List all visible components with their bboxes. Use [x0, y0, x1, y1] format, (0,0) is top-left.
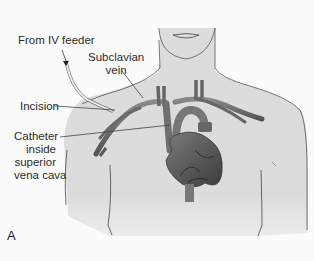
label-catheter-line3: superior	[14, 156, 56, 169]
inferior-vena-cava	[185, 184, 194, 202]
label-subclavian-vein: Subclavian vein	[88, 51, 144, 77]
label-catheter-svc: Catheter inside superior vena cava	[14, 130, 56, 182]
label-incision: Incision	[20, 100, 59, 113]
label-subclavian-line1: Subclavian	[88, 51, 144, 64]
label-from-iv-feeder: From IV feeder	[18, 34, 95, 47]
panel-letter: A	[7, 228, 16, 243]
label-catheter-line2: inside	[14, 143, 56, 156]
label-catheter-line4: vena cava	[14, 169, 56, 182]
catheter-diagram: From IV feeder Subclavian vein Incision …	[0, 0, 314, 261]
label-subclavian-line2: vein	[88, 64, 144, 77]
label-catheter-line1: Catheter	[14, 130, 56, 143]
